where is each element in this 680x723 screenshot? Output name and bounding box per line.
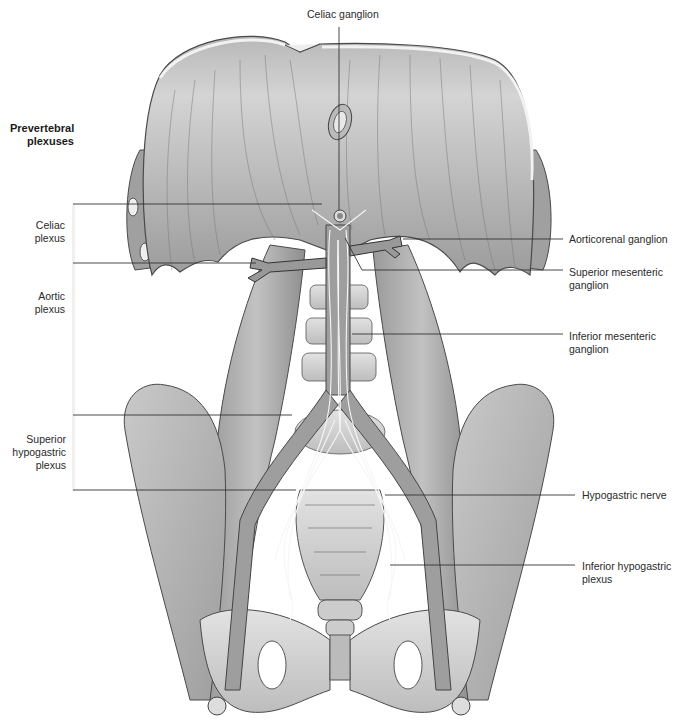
leader-superior-mesenteric-ganglion	[345, 238, 362, 270]
title-line-1: Prevertebral	[10, 122, 74, 135]
label-celiac-plexus: Celiac plexus	[10, 219, 65, 245]
title-line-2: plexuses	[10, 135, 74, 148]
label-inferior-mesenteric-ganglion: Inferior mesenteric ganglion	[569, 330, 656, 356]
label-line: Superior mesenteric	[569, 266, 663, 279]
label-line: hypogastric	[0, 446, 66, 459]
label-inferior-hypogastric-plexus: Inferior hypogastric plexus	[582, 560, 671, 586]
label-line: ganglion	[569, 279, 663, 292]
label-hypogastric-nerve: Hypogastric nerve	[582, 489, 667, 502]
label-line: Aorticorenal ganglion	[569, 233, 668, 246]
label-line: Inferior hypogastric	[582, 560, 671, 573]
label-line: plexus	[10, 232, 65, 245]
leader-lines	[0, 0, 680, 723]
label-line: ganglion	[569, 343, 656, 356]
label-celiac-ganglion: Celiac ganglion	[307, 8, 379, 21]
label-line: plexus	[10, 303, 65, 316]
label-line: Celiac	[10, 219, 65, 232]
label-line: Hypogastric nerve	[582, 489, 667, 502]
label-aortic-plexus: Aortic plexus	[10, 290, 65, 316]
label-text: Celiac ganglion	[307, 8, 379, 20]
figure-title: Prevertebral plexuses	[10, 122, 74, 148]
label-line: Aortic	[10, 290, 65, 303]
label-line: Inferior mesenteric	[569, 330, 656, 343]
label-aorticorenal-ganglion: Aorticorenal ganglion	[569, 233, 668, 246]
label-superior-hypogastric-plexus: Superior hypogastric plexus	[0, 433, 66, 472]
label-line: plexus	[582, 573, 671, 586]
label-line: Superior	[0, 433, 66, 446]
label-line: plexus	[0, 459, 66, 472]
label-superior-mesenteric-ganglion: Superior mesenteric ganglion	[569, 266, 663, 292]
